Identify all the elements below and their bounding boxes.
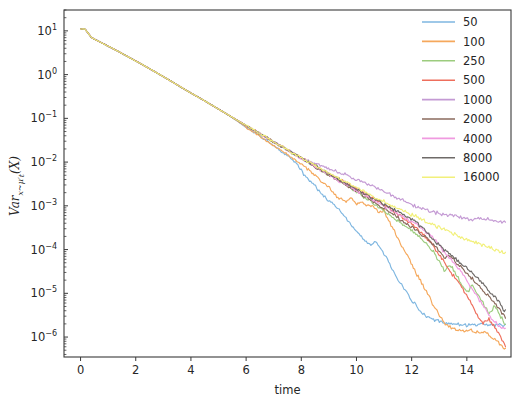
figure-container: 02468101214 10110010−110−210−310−410−510… bbox=[0, 0, 512, 403]
series-line-500 bbox=[81, 29, 506, 347]
y-tick-label: 10−6 bbox=[31, 329, 57, 344]
y-tick-label: 10−1 bbox=[31, 110, 57, 125]
legend-label-2000[interactable]: 2000 bbox=[463, 112, 492, 126]
series-line-16000 bbox=[81, 29, 506, 254]
y-axis-ticks: 10110010−110−210−310−410−510−6 bbox=[31, 10, 68, 354]
y-tick-label: 10−4 bbox=[31, 242, 57, 257]
series-line-2000 bbox=[81, 29, 506, 319]
legend-label-1000[interactable]: 1000 bbox=[463, 93, 492, 107]
data-series-group bbox=[81, 29, 506, 349]
y-tick-label: 100 bbox=[37, 67, 57, 82]
x-tick-label: 6 bbox=[242, 363, 249, 377]
x-axis-ticks: 02468101214 bbox=[77, 357, 474, 377]
y-tick-label: 10−2 bbox=[31, 154, 57, 169]
legend-label-100[interactable]: 100 bbox=[463, 35, 485, 49]
legend-label-500[interactable]: 500 bbox=[463, 73, 485, 87]
legend-label-50[interactable]: 50 bbox=[463, 15, 478, 29]
x-tick-label: 2 bbox=[132, 363, 139, 377]
chart-canvas: 02468101214 10110010−110−210−310−410−510… bbox=[0, 0, 512, 403]
x-tick-label: 10 bbox=[349, 363, 364, 377]
x-tick-label: 12 bbox=[404, 363, 419, 377]
y-axis-title: Varx~μ′t(X) bbox=[8, 156, 26, 216]
x-tick-label: 8 bbox=[298, 363, 305, 377]
x-tick-label: 14 bbox=[460, 363, 475, 377]
y-tick-label: 10−5 bbox=[31, 285, 57, 300]
plot-frame bbox=[64, 10, 511, 357]
series-line-1000 bbox=[81, 29, 506, 223]
x-tick-label: 4 bbox=[187, 363, 194, 377]
legend-label-250[interactable]: 250 bbox=[463, 54, 485, 68]
legend-label-8000[interactable]: 8000 bbox=[463, 151, 492, 165]
x-axis-title: time bbox=[275, 383, 301, 397]
chart-legend: 50100250500100020004000800016000 bbox=[422, 15, 500, 184]
series-line-8000 bbox=[81, 29, 506, 312]
y-tick-label: 101 bbox=[37, 23, 57, 38]
legend-label-16000[interactable]: 16000 bbox=[463, 170, 500, 184]
x-tick-label: 0 bbox=[77, 363, 84, 377]
series-line-100 bbox=[81, 29, 506, 349]
axes-frame bbox=[64, 10, 511, 357]
axis-labels-group: timeVarx~μ′t(X) bbox=[8, 156, 300, 397]
legend-label-4000[interactable]: 4000 bbox=[463, 132, 492, 146]
series-line-4000 bbox=[81, 29, 506, 329]
y-tick-label: 10−3 bbox=[31, 198, 57, 213]
